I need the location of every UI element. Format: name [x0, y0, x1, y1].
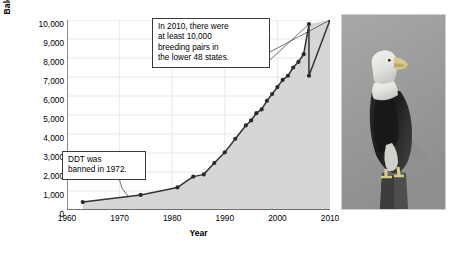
bald-eagle-population-chart: Bald eagle pairs 01,0002,0003,0004,0005,…: [0, 0, 340, 255]
x-axis-tick-label: 1970: [100, 213, 140, 223]
annotation-line: breeding pairs in: [158, 43, 264, 53]
annotation-line: the lower 48 states.: [158, 53, 264, 63]
x-axis-tick-label: 2000: [257, 213, 297, 223]
bald-eagle-illustration: [342, 15, 445, 209]
y-axis-tick-label: 7,000: [16, 77, 64, 85]
x-axis-tick-labels: 196019701980199020002010: [67, 213, 330, 227]
figure: Bald eagle pairs 01,0002,0003,0004,0005,…: [0, 0, 462, 255]
y-axis-tick-label: 6,000: [16, 96, 64, 104]
y-axis-tick-label: 10,000: [16, 20, 64, 28]
y-axis-tick-labels: 01,0002,0003,0004,0005,0006,0007,0008,00…: [16, 14, 64, 214]
annotation-line: banned in 1972.: [68, 165, 140, 175]
annotation-line: at least 10,000: [158, 32, 264, 42]
bald-eagle-photo: [341, 14, 446, 210]
annotation-ddt-callout: DDT wasbanned in 1972.: [62, 151, 146, 180]
y-axis-tick-label: 9,000: [16, 39, 64, 47]
x-axis-tick-label: 2010: [310, 213, 350, 223]
y-axis-tick-label: 8,000: [16, 58, 64, 66]
x-axis-tick-label: 1990: [205, 213, 245, 223]
x-axis-title: Year: [67, 228, 330, 238]
annotation-line: In 2010, there were: [158, 22, 264, 32]
x-axis-tick-label: 1960: [47, 213, 87, 223]
y-axis-title: Bald eagle pairs: [2, 0, 16, 46]
y-axis-tick-label: 2,000: [16, 172, 64, 180]
y-axis-tick-label: 4,000: [16, 134, 64, 142]
y-axis-tick-label: 1,000: [16, 191, 64, 199]
y-axis-tick-label: 5,000: [16, 115, 64, 123]
x-axis-tick-label: 1980: [152, 213, 192, 223]
annotation-line: DDT was: [68, 155, 140, 165]
y-axis-tick-label: 3,000: [16, 153, 64, 161]
annotation-2010-callout: In 2010, there wereat least 10,000breedi…: [152, 18, 270, 68]
